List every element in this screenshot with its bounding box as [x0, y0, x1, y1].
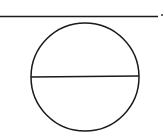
- circle-diameter-line: [31, 76, 139, 77]
- circle-diagram: [0, 0, 164, 139]
- line-end-dot: [161, 14, 163, 16]
